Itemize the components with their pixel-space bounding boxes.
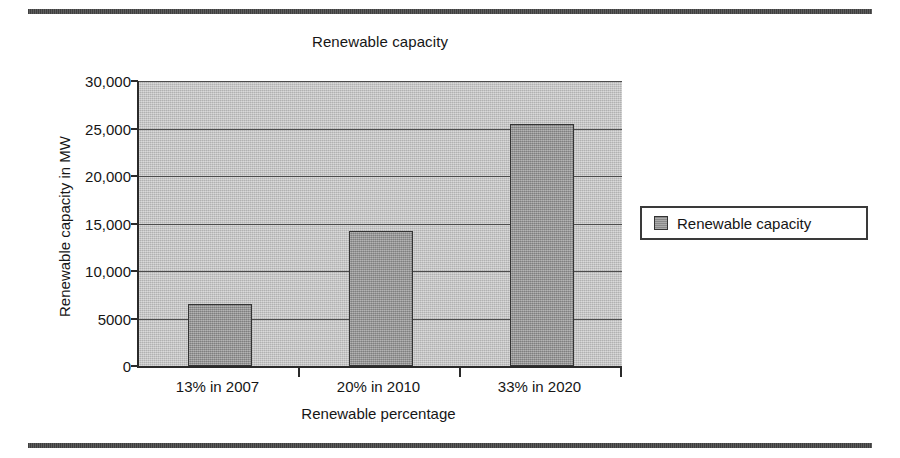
bottom-rule bbox=[28, 443, 872, 448]
chart-title: Renewable capacity bbox=[0, 33, 760, 50]
y-tick-label: 0 bbox=[45, 358, 131, 375]
bar[interactable] bbox=[188, 304, 252, 366]
y-tick-label: 30,000 bbox=[45, 73, 131, 90]
legend-label: Renewable capacity bbox=[677, 215, 811, 232]
y-tick-label: 10,000 bbox=[45, 263, 131, 280]
x-tick-separator bbox=[459, 368, 461, 377]
y-axis-ticks: 0500010,00015,00020,00025,00030,000 bbox=[43, 81, 131, 366]
y-tick-label: 15,000 bbox=[45, 215, 131, 232]
x-category-label: 33% in 2020 bbox=[460, 378, 620, 395]
x-category-label: 13% in 2007 bbox=[138, 378, 298, 395]
y-tick-label: 20,000 bbox=[45, 168, 131, 185]
y-tick-label: 25,000 bbox=[45, 120, 131, 137]
figure-container: Renewable capacity Renewable capacity in… bbox=[0, 0, 900, 458]
plot-area bbox=[137, 81, 622, 368]
y-tick-label: 5000 bbox=[45, 310, 131, 327]
top-rule bbox=[28, 9, 872, 14]
bar[interactable] bbox=[510, 124, 574, 366]
bars-layer bbox=[139, 81, 622, 366]
chart-legend[interactable]: Renewable capacity bbox=[640, 206, 868, 240]
legend-swatch-icon bbox=[654, 216, 668, 230]
x-tick-separator bbox=[298, 368, 300, 377]
x-axis-title: Renewable percentage bbox=[137, 405, 620, 422]
bar[interactable] bbox=[349, 231, 413, 366]
x-category-label: 20% in 2010 bbox=[299, 378, 459, 395]
x-tick-separator bbox=[620, 368, 622, 377]
